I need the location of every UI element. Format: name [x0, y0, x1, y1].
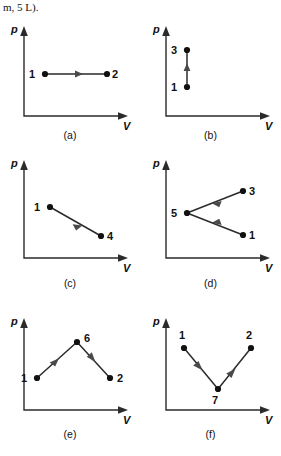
axis-lines-c: [24, 170, 118, 258]
panel-b-caption: (b): [140, 129, 281, 141]
panel-d-plot: p V 5 3 1: [140, 145, 281, 295]
state-label-5: 5: [171, 207, 177, 219]
panel-c-plot: p V 1 4: [0, 145, 140, 295]
states-c: 1 4: [34, 201, 114, 242]
pv-diagram-grid: p V 1 2 (a): [0, 12, 281, 456]
panel-a-plot: p V 1 2: [0, 12, 140, 145]
state-dot-1: [184, 84, 190, 90]
axis-lines-e: [24, 328, 118, 410]
v-axis-arrowhead-d: [260, 254, 270, 262]
axis-lines-a: [24, 36, 118, 116]
v-axis-label: V: [265, 414, 274, 426]
panel-b: p V 3 1 (b): [140, 12, 281, 145]
process-arrowhead-1-7: [193, 361, 202, 370]
state-dot-7: [215, 386, 221, 392]
p-axis-label: p: [10, 157, 18, 169]
process-paths-e: [37, 342, 110, 378]
v-axis-arrowhead-a: [118, 112, 128, 120]
state-dot-1: [181, 345, 187, 351]
states-e: 1 6 2: [21, 332, 123, 384]
state-dot-3: [184, 47, 190, 53]
axes-c: p V: [10, 157, 132, 274]
state-label-1: 1: [21, 372, 27, 384]
state-label-2: 2: [246, 329, 252, 341]
state-label-1: 1: [29, 68, 35, 80]
panel-d-caption: (d): [140, 277, 281, 289]
process-1-to-5: [187, 213, 243, 235]
axes-f: p V: [152, 315, 274, 426]
state-label-1: 1: [179, 329, 185, 341]
process-arrowhead-1-3: [184, 63, 191, 71]
panel-a: p V 1 2 (a): [0, 12, 140, 145]
panel-c-caption: (c): [0, 277, 140, 289]
process-paths-a: [45, 71, 107, 78]
axes-b: p V: [152, 23, 274, 132]
p-axis-label: p: [152, 23, 160, 35]
process-3-to-5: [187, 191, 243, 213]
panel-f-caption: (f): [140, 428, 281, 440]
v-axis-arrowhead-c: [118, 254, 128, 262]
p-axis-arrowhead-d: [162, 160, 170, 170]
axis-lines-b: [166, 36, 260, 116]
panel-e-caption: (e): [0, 428, 140, 440]
state-dot-6: [74, 339, 80, 345]
state-dot-2: [107, 375, 113, 381]
state-label-1: 1: [34, 201, 40, 213]
process-paths-d: [187, 191, 243, 235]
process-paths-f: [184, 348, 251, 389]
state-dot-1: [42, 71, 48, 77]
process-paths-b: [184, 50, 191, 87]
state-dot-4: [98, 233, 104, 239]
panel-b-plot: p V 3 1: [140, 12, 281, 145]
p-axis-label: p: [152, 315, 160, 327]
axis-lines-d: [166, 170, 260, 258]
axes-e: p V: [10, 315, 132, 426]
state-label-3: 3: [249, 185, 255, 197]
state-dot-1: [240, 232, 246, 238]
state-dot-3: [240, 188, 246, 194]
process-paths-c: [50, 207, 101, 236]
state-dot-1: [34, 375, 40, 381]
p-axis-arrowhead-f: [162, 318, 170, 328]
states-f: 1 7 2: [179, 329, 254, 406]
state-label-2: 2: [112, 68, 118, 80]
state-label-3: 3: [171, 44, 177, 56]
panel-d: p V 5 3 1: [140, 145, 281, 295]
state-dot-1: [47, 204, 53, 210]
state-label-4: 4: [107, 230, 114, 242]
panel-a-caption: (a): [0, 129, 140, 141]
p-axis-arrowhead-a: [20, 26, 28, 36]
v-axis-label: V: [265, 262, 274, 274]
v-axis-label: V: [123, 414, 132, 426]
panel-e: p V 1 6 2: [0, 295, 140, 456]
process-1-to-4: [50, 207, 101, 236]
state-label-1: 1: [171, 81, 177, 93]
state-label-7: 7: [212, 394, 218, 406]
p-axis-arrowhead-c: [20, 160, 28, 170]
v-axis-label: V: [123, 262, 132, 274]
p-axis-arrowhead-e: [20, 318, 28, 328]
process-7-to-2: [218, 348, 251, 389]
figure-root: m, 5 L). p V: [0, 0, 281, 456]
v-axis-arrowhead-e: [118, 406, 128, 414]
panel-c: p V 1 4 (c): [0, 145, 140, 295]
v-axis-arrowhead-f: [260, 406, 270, 414]
state-dot-2: [104, 71, 110, 77]
state-label-2: 2: [117, 372, 123, 384]
p-axis-label: p: [152, 157, 160, 169]
state-dot-5: [184, 210, 190, 216]
v-axis-arrowhead-b: [260, 112, 270, 120]
p-axis-label: p: [10, 315, 18, 327]
process-arrowhead-1-2: [75, 71, 83, 78]
state-label-6: 6: [84, 332, 90, 344]
state-label-1: 1: [249, 229, 255, 241]
states-d: 5 3 1: [171, 185, 255, 241]
p-axis-label: p: [10, 23, 18, 35]
panel-f: p V 1 7 2: [140, 295, 281, 456]
p-axis-arrowhead-b: [162, 26, 170, 36]
state-dot-2: [248, 345, 254, 351]
